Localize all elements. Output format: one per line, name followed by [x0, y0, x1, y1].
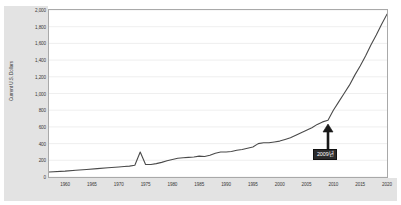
x-tick-label: 1960 — [52, 182, 78, 188]
x-tick-label: 2020 — [374, 182, 400, 188]
y-tick-label: 1,800 — [4, 24, 46, 29]
y-axis-tick-labels: 2,0001,8001,6001,4001,2001,0008006004002… — [2, 9, 46, 178]
x-tick-label: 2000 — [267, 182, 293, 188]
x-tick-label: 1980 — [159, 182, 185, 188]
annotation-arrow-icon — [321, 123, 335, 151]
x-tick-label: 1965 — [79, 182, 105, 188]
x-tick-label: 1990 — [213, 182, 239, 188]
x-axis-tick-labels: 1960196519701975198019851990199520002005… — [48, 182, 388, 196]
y-tick-label: 800 — [4, 108, 46, 113]
y-tick-label: 400 — [4, 141, 46, 146]
y-tick-label: 2,000 — [4, 8, 46, 13]
x-tick-label: 2005 — [294, 182, 320, 188]
y-tick-label: 1,000 — [4, 91, 46, 96]
x-tick-label: 1995 — [240, 182, 266, 188]
annotation-label-2009: 2009년 — [313, 149, 338, 160]
x-tick-label: 2015 — [347, 182, 373, 188]
y-tick-label: 1,400 — [4, 58, 46, 63]
x-tick-label: 1975 — [133, 182, 159, 188]
y-tick-label: 600 — [4, 124, 46, 129]
x-tick-label: 1985 — [186, 182, 212, 188]
figure-frame: Current U.S. Dollars 2,0001,8001,6001,40… — [0, 0, 401, 205]
chart-screenshot: Current U.S. Dollars 2,0001,8001,6001,40… — [0, 0, 401, 205]
y-tick-label: 200 — [4, 158, 46, 163]
y-tick-label: 0 — [4, 175, 46, 180]
x-tick-label: 1970 — [106, 182, 132, 188]
y-tick-label: 1,200 — [4, 74, 46, 79]
y-tick-label: 1,600 — [4, 41, 46, 46]
x-tick-label: 2010 — [320, 182, 346, 188]
